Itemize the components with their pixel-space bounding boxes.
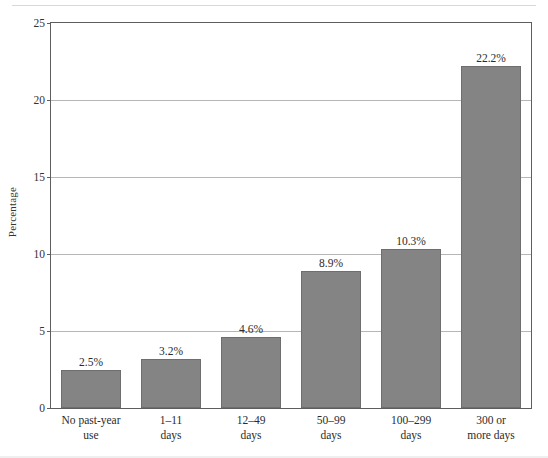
bar: 10.3% bbox=[381, 249, 441, 408]
x-axis-category-label: 100–299days bbox=[371, 413, 451, 442]
y-axis-tick-mark bbox=[47, 254, 51, 255]
y-axis-tick-label: 25 bbox=[34, 17, 46, 29]
bar: 3.2% bbox=[141, 359, 201, 408]
x-axis-category-label: 50–99days bbox=[291, 413, 371, 442]
bar: 8.9% bbox=[301, 271, 361, 408]
y-axis-tick-mark bbox=[47, 177, 51, 178]
bar-value-label: 8.9% bbox=[319, 257, 343, 269]
y-axis-tick-mark bbox=[47, 23, 51, 24]
bar: 4.6% bbox=[221, 337, 281, 408]
gridline bbox=[51, 331, 531, 332]
y-axis-tick-label: 15 bbox=[34, 171, 46, 183]
bar-value-label: 22.2% bbox=[476, 52, 506, 64]
bar-value-label: 10.3% bbox=[396, 235, 426, 247]
bar-value-label: 2.5% bbox=[79, 356, 103, 368]
x-axis-category-label: 300 ormore days bbox=[451, 413, 531, 442]
gridline bbox=[51, 254, 531, 255]
plot-area: 05101520252.5%3.2%4.6%8.9%10.3%22.2% bbox=[50, 22, 532, 409]
bar-value-label: 3.2% bbox=[159, 345, 183, 357]
y-axis-tick-label: 5 bbox=[39, 325, 45, 337]
y-axis-title: Percentage bbox=[6, 167, 18, 257]
x-axis-category-label: 12–49days bbox=[211, 413, 291, 442]
bar: 2.5% bbox=[61, 370, 121, 409]
bar-chart-figure: Percentage 05101520252.5%3.2%4.6%8.9%10.… bbox=[0, 0, 548, 458]
y-axis-tick-mark bbox=[47, 100, 51, 101]
x-axis-category-label: No past-yearuse bbox=[51, 413, 131, 442]
scan-artifact-line-top bbox=[12, 5, 536, 6]
y-axis-tick-label: 10 bbox=[34, 248, 46, 260]
y-axis-tick-label: 0 bbox=[39, 402, 45, 414]
gridline bbox=[51, 100, 531, 101]
bar: 22.2% bbox=[461, 66, 521, 408]
y-axis-tick-label: 20 bbox=[34, 94, 46, 106]
y-axis-tick-mark bbox=[47, 408, 51, 409]
x-axis-category-label: 1–11days bbox=[131, 413, 211, 442]
y-axis-tick-mark bbox=[47, 331, 51, 332]
bar-value-label: 4.6% bbox=[239, 323, 263, 335]
gridline bbox=[51, 177, 531, 178]
